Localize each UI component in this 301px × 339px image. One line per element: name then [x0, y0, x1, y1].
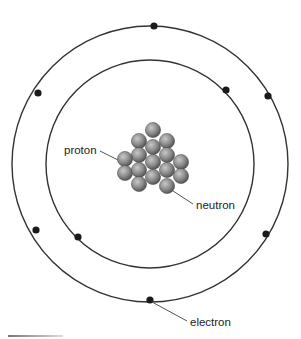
electron-dot [262, 230, 269, 237]
nucleon-sphere [131, 176, 146, 191]
neutron-label: neutron [196, 199, 235, 211]
nucleon-sphere [159, 162, 174, 177]
neutron-leader-line [170, 189, 193, 204]
nucleon-sphere [117, 151, 132, 166]
nucleon-sphere [145, 122, 160, 137]
electron-dot [222, 86, 229, 93]
nucleon-sphere [131, 147, 146, 162]
electron-dot [150, 22, 157, 29]
nucleon-sphere [159, 147, 174, 162]
nucleon-sphere [131, 133, 146, 148]
electron-dot [74, 233, 81, 240]
electron-dot [264, 92, 271, 99]
electron-leader-line [152, 302, 187, 321]
nucleus [117, 122, 188, 193]
scale-bar-decoration [8, 335, 63, 337]
nucleon-sphere [145, 154, 160, 169]
nucleon-sphere [145, 169, 160, 184]
nucleon-sphere [173, 154, 188, 169]
nucleon-sphere [117, 165, 132, 180]
electron-dot [32, 226, 39, 233]
nucleon-sphere [145, 139, 160, 154]
atom-diagram: proton neutron electron [0, 0, 301, 339]
nucleon-sphere [159, 133, 174, 148]
nucleon-sphere [131, 162, 146, 177]
nucleon-sphere [173, 168, 188, 183]
proton-label: proton [64, 144, 97, 156]
electron-label: electron [190, 316, 231, 328]
nucleon-sphere [159, 178, 174, 193]
electron-dot [34, 89, 41, 96]
